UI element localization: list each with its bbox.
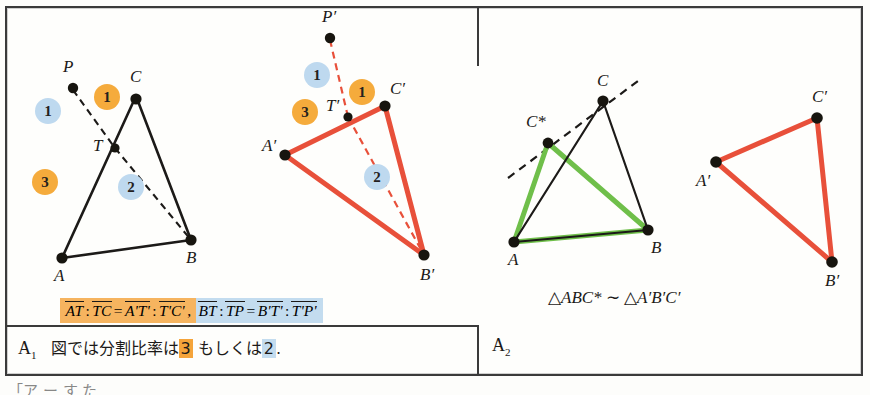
- point-label-C-a2: C: [597, 72, 608, 89]
- badge-orange-1-a1l: 1: [94, 84, 120, 110]
- edge-Ap-Bp-a2: [716, 162, 832, 262]
- seg-BT: BT: [198, 301, 217, 319]
- vertex-A-a2: [508, 236, 519, 247]
- similarity-right-term: A′B′C′: [637, 288, 680, 307]
- point-label-T: T: [93, 137, 102, 154]
- badge-orange-1-a1r: 1: [349, 79, 375, 105]
- scan-bleed-text: 「ア ー す た: [8, 379, 208, 395]
- badge-orange-3-a1l: 3: [32, 169, 58, 195]
- formula-bar: AT:TC=A'T':T'C', BT:TP=B'T':T'P': [60, 298, 323, 323]
- seg-TP: TP: [225, 301, 244, 319]
- similarity-left-term: ABC*: [561, 288, 602, 307]
- vertex-C-a2: [597, 95, 608, 106]
- similar-relation: ∼: [606, 288, 620, 307]
- diagram-a2-right: [690, 0, 870, 300]
- panel-tag-a2: A2: [492, 335, 511, 358]
- badge-orange-3-a1r: 3: [292, 99, 318, 125]
- vertex-Cp: [379, 100, 390, 111]
- badge-blue-2-a1r: 2: [364, 164, 390, 190]
- edge-C-B: [136, 96, 191, 240]
- caption-mark-2: 2: [262, 339, 276, 358]
- caption-mark-3: 3: [179, 339, 193, 358]
- seg-TpCp: T'C': [159, 301, 186, 319]
- badge-blue-1-a1r: 1: [304, 62, 330, 88]
- triangle-symbol-right: △: [624, 288, 637, 307]
- diagram-a2-left: [490, 0, 700, 300]
- vertex-T: [110, 143, 119, 152]
- seg-AT: AT: [65, 301, 84, 319]
- point-label-A-a2: A: [508, 251, 518, 268]
- point-label-C-prime-a2: C′: [812, 88, 827, 105]
- caption-rule: [7, 325, 477, 327]
- point-label-T-prime: T′: [326, 97, 339, 114]
- point-label-C: C: [130, 68, 141, 85]
- point-label-C-prime: C′: [390, 80, 405, 97]
- edge-Cp-Bp-a2: [817, 118, 832, 262]
- seg-BpTp: B'T': [257, 301, 283, 319]
- badge-blue-2-a1l: 2: [118, 174, 144, 200]
- seg-TC: TC: [92, 301, 112, 319]
- edge-A-B: [62, 240, 191, 258]
- vertex-Bp: [418, 249, 429, 260]
- point-label-B-a2: B: [651, 239, 661, 256]
- green-edge-A-Cstar: [514, 143, 548, 242]
- vertex-B: [185, 234, 196, 245]
- caption-a2: A2: [492, 335, 511, 358]
- vertex-Ap-a2: [710, 156, 722, 168]
- seg-TpPp: T'P': [291, 301, 317, 319]
- edge-Ap-Cp-a2: [716, 118, 817, 162]
- triangle-symbol-left: △: [548, 288, 561, 307]
- seg-ApTp: A'T': [125, 301, 151, 319]
- vertex-P: [68, 83, 78, 93]
- diagram-a1-left: [0, 0, 260, 300]
- vertex-C: [130, 93, 141, 104]
- vertex-Cp-a2: [811, 112, 823, 124]
- point-label-B: B: [186, 249, 196, 266]
- diagram-a1-right: [250, 0, 480, 300]
- formula-orange-group: AT:TC=A'T':T'C',: [60, 298, 196, 323]
- point-label-A-prime-a2: A′: [696, 172, 710, 189]
- point-label-B-prime: B′: [420, 266, 434, 283]
- formula-comma: ,: [185, 302, 193, 319]
- point-label-Cstar-a2: C*: [526, 113, 546, 130]
- point-label-P-prime: P′: [322, 8, 336, 25]
- vertex-B-a2: [642, 224, 653, 235]
- panel-divider-bottom: [477, 325, 479, 374]
- figure-page: P C T A B 1 1 3 2 P′ C′ T′ A′ B′ 1 1 3 2…: [0, 0, 870, 395]
- panel-tag-a1: A1: [18, 338, 37, 361]
- badge-blue-1-a1l: 1: [35, 98, 61, 124]
- black-edge-A-B: [514, 230, 648, 242]
- caption-a1: A1 図では分割比率は3 もしくは2.: [18, 335, 281, 361]
- point-label-P: P: [63, 58, 73, 75]
- point-label-B-prime-a2: B′: [825, 272, 839, 289]
- vertex-Cstar-a2: [543, 138, 554, 149]
- caption-a1-text: 図では分割比率は3 もしくは2.: [51, 335, 282, 359]
- vertex-Tp: [343, 112, 352, 121]
- point-label-A-prime: A′: [262, 137, 276, 154]
- vertex-A: [56, 252, 67, 263]
- formula-blue-group: BT:TP=B'T':T'P': [196, 298, 323, 323]
- vertex-Pp: [325, 33, 335, 43]
- vertex-Bp-a2: [826, 256, 838, 268]
- similarity-statement: △ABC* ∼ △A′B′C′: [548, 287, 680, 308]
- vertex-Ap: [279, 149, 290, 160]
- point-label-A: A: [54, 267, 64, 284]
